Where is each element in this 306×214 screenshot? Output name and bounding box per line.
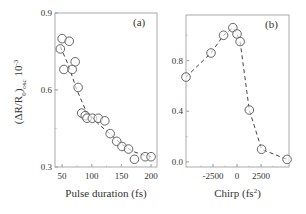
data-point — [257, 145, 266, 154]
x-tick-label: 0 — [235, 171, 240, 181]
data-point — [65, 37, 74, 46]
y-tick-label: 0.3 — [41, 162, 53, 172]
panel-b-data-points — [182, 23, 292, 163]
x-tick-label: 200 — [144, 171, 158, 181]
panel-b-label: (b) — [265, 18, 278, 31]
y-tick-label: 0.8 — [172, 56, 184, 66]
data-point — [245, 106, 254, 115]
y-tick-label: 0.9 — [41, 8, 53, 18]
data-point — [219, 31, 228, 40]
panel-b: -2500025000.00.40.8 (b) Chirp (fs2) — [172, 15, 292, 200]
data-point — [56, 45, 65, 54]
x-tick-label: 150 — [115, 171, 129, 181]
x-tick-label: 50 — [58, 171, 68, 181]
data-point — [182, 73, 191, 82]
x-tick-label: 100 — [85, 171, 99, 181]
data-point — [207, 49, 216, 58]
panel-a: 501001502000.30.60.9 (a) Pulse duration … — [12, 8, 158, 200]
panel-b-connecting-line — [186, 28, 287, 160]
data-point — [283, 155, 292, 164]
y-tick-label: 0.0 — [172, 157, 184, 167]
y-tick-label: 0.4 — [172, 106, 184, 116]
data-point — [101, 117, 110, 126]
data-point — [130, 155, 139, 164]
data-point — [236, 37, 245, 46]
panel-a-frame — [55, 13, 157, 167]
panel-a-ticks: 501001502000.30.60.9 — [41, 8, 159, 181]
chart-canvas: 501001502000.30.60.9 (a) Pulse duration … — [0, 0, 306, 214]
y-tick-label: 0.6 — [41, 85, 53, 95]
data-point — [147, 152, 156, 161]
data-point — [106, 129, 115, 138]
panel-b-x-axis-label: Chirp (fs2) — [214, 187, 261, 200]
x-tick-label: -2500 — [202, 171, 223, 181]
data-point — [60, 65, 69, 74]
panel-a-x-axis-label: Pulse duration (fs) — [65, 187, 147, 200]
panel-a-label: (a) — [133, 16, 146, 29]
panel-a-y-axis-label: (ΔR/R0)osc 10-3 — [12, 59, 28, 124]
x-tick-label: 2500 — [252, 171, 271, 181]
panel-a-data-points — [56, 34, 155, 163]
data-point — [71, 57, 80, 66]
panel-b-ticks: -2500025000.00.40.8 — [172, 35, 285, 181]
data-point — [124, 145, 133, 154]
data-point — [74, 83, 83, 92]
figure: 501001502000.30.60.9 (a) Pulse duration … — [0, 0, 306, 214]
